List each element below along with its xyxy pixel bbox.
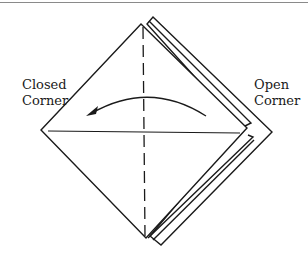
open-corner-label-line1: Open xyxy=(254,77,300,93)
folded-square-diagram xyxy=(0,0,308,253)
open-corner-label-line2: Corner xyxy=(254,93,300,109)
closed-corner-label: Closed Corner xyxy=(22,77,68,109)
open-corner-label: Open Corner xyxy=(254,77,300,109)
closed-corner-label-line1: Closed xyxy=(22,77,68,93)
closed-corner-label-line2: Corner xyxy=(22,93,68,109)
